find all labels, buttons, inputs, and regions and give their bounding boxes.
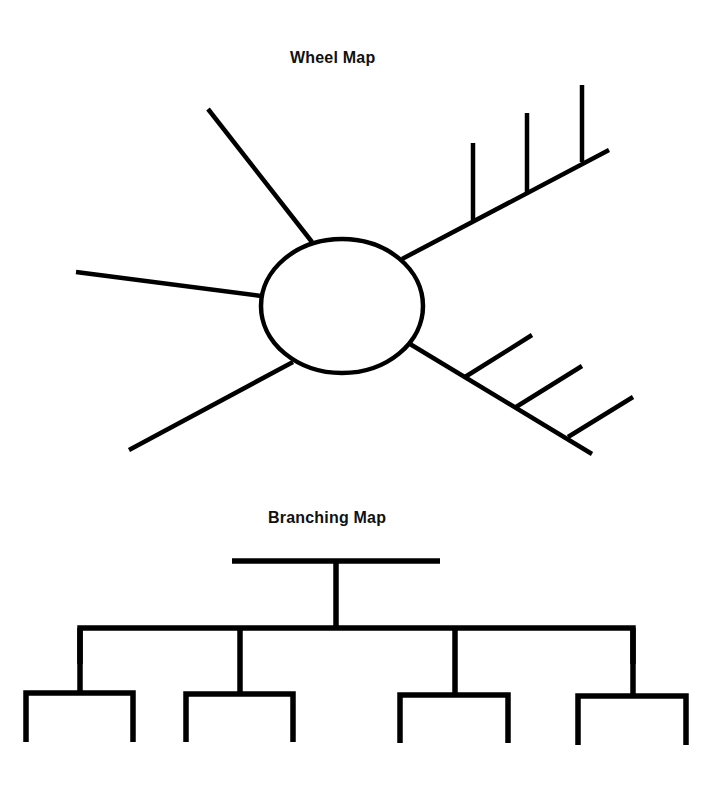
sub-bracket-1 [26, 693, 133, 742]
mid-bar-line [80, 628, 633, 664]
spoke-upper-right-line [402, 150, 609, 259]
spoke-lower-left-line [129, 362, 293, 450]
wheel-map [76, 85, 633, 454]
sub-bracket-3 [400, 695, 508, 743]
sub-bracket-4 [578, 696, 686, 745]
wheel-hub-circle [261, 239, 423, 373]
lower-right-tine-line [568, 397, 633, 437]
spoke-lower-right-line [410, 344, 592, 454]
diagram-canvas [0, 0, 724, 794]
branching-map [26, 561, 686, 745]
lower-right-tine-line [465, 335, 532, 377]
lower-right-tine-line [516, 366, 582, 407]
spoke-top-line [208, 109, 312, 242]
sub-bracket-2 [186, 694, 293, 742]
spoke-left-line [76, 272, 261, 296]
